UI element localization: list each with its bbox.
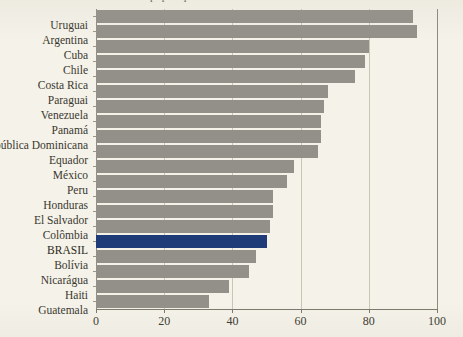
bar-row (96, 144, 437, 159)
bar-uruguai (96, 10, 413, 23)
category-label-nicar-gua: Nicarágua (0, 274, 88, 287)
category-tick (93, 301, 96, 302)
bar-peru (96, 175, 287, 188)
chart-title: população (150, 0, 199, 2)
x-tick-label-0: 0 (93, 314, 99, 329)
bar-row (96, 54, 437, 69)
bar-row (96, 174, 437, 189)
category-label-uruguai: Uruguai (0, 19, 88, 32)
x-tick-40 (232, 309, 233, 313)
bar-row (96, 219, 437, 234)
bar-m-xico (96, 160, 294, 173)
x-axis-line (96, 309, 438, 310)
bar-bol-via (96, 250, 256, 263)
category-tick (93, 61, 96, 62)
category-label-col-mbia: Colômbia (0, 229, 88, 242)
category-tick (93, 226, 96, 227)
bar-row (96, 99, 437, 114)
category-tick (93, 211, 96, 212)
plot-area: UruguaiArgentinaCubaChileCosta RicaParag… (96, 9, 437, 309)
chart-title-strip: população (0, 0, 463, 9)
bar-row (96, 249, 437, 264)
category-label-rep-blica-dominicana: República Dominicana (0, 139, 88, 152)
bar-row (96, 204, 437, 219)
category-label-guatemala: Guatemala (0, 304, 88, 317)
bar-row (96, 294, 437, 309)
bar-row (96, 84, 437, 99)
x-tick-100 (437, 309, 438, 313)
bar-el-salvador (96, 205, 273, 218)
bar-chart: população UruguaiArgentinaCubaChileCosta… (0, 0, 463, 337)
bar-row (96, 129, 437, 144)
category-label-panam-: Panamá (0, 124, 88, 137)
bar-row (96, 264, 437, 279)
bar-argentina (96, 25, 417, 38)
category-label-equador: Equador (0, 154, 88, 167)
bar-row (96, 9, 437, 24)
x-tick-60 (301, 309, 302, 313)
bar-panam- (96, 115, 321, 128)
category-label-honduras: Honduras (0, 199, 88, 212)
bar-col-mbia (96, 220, 270, 233)
category-tick (93, 31, 96, 32)
category-tick (93, 91, 96, 92)
bar-cuba (96, 40, 369, 53)
category-label-venezuela: Venezuela (0, 109, 88, 122)
category-label-paraguai: Paraguai (0, 94, 88, 107)
category-tick (93, 241, 96, 242)
bar-rep-blica-dominicana (96, 130, 321, 143)
bar-row (96, 114, 437, 129)
category-label-chile: Chile (0, 64, 88, 77)
bar-venezuela (96, 100, 324, 113)
bar-nicar-gua (96, 265, 249, 278)
bar-guatemala (96, 295, 209, 308)
category-tick (93, 166, 96, 167)
x-tick-label-100: 100 (428, 314, 446, 329)
bar-row (96, 39, 437, 54)
bar-haiti (96, 280, 229, 293)
bar-row (96, 69, 437, 84)
category-label-haiti: Haiti (0, 289, 88, 302)
category-tick (93, 121, 96, 122)
bar-equador (96, 145, 318, 158)
bar-brasil (96, 235, 267, 248)
bar-chile (96, 55, 365, 68)
category-tick (93, 151, 96, 152)
category-tick (93, 106, 96, 107)
category-tick (93, 46, 96, 47)
category-tick (93, 286, 96, 287)
x-tick-20 (164, 309, 165, 313)
x-tick-label-40: 40 (226, 314, 238, 329)
bar-costa-rica (96, 70, 355, 83)
category-tick (93, 196, 96, 197)
category-tick (93, 181, 96, 182)
category-tick (93, 76, 96, 77)
category-label-argentina: Argentina (0, 34, 88, 47)
category-labels: UruguaiArgentinaCubaChileCosta RicaParag… (0, 18, 92, 318)
bar-row (96, 189, 437, 204)
bar-honduras (96, 190, 273, 203)
category-tick (93, 256, 96, 257)
bar-paraguai (96, 85, 328, 98)
category-label-m-xico: México (0, 169, 88, 182)
x-tick-0 (96, 309, 97, 313)
x-tick-label-80: 80 (363, 314, 375, 329)
bar-row (96, 234, 437, 249)
bar-row (96, 279, 437, 294)
x-tick-80 (369, 309, 370, 313)
category-label-el-salvador: El Salvador (0, 214, 88, 227)
category-tick (93, 271, 96, 272)
category-label-cuba: Cuba (0, 49, 88, 62)
x-tick-label-60: 60 (295, 314, 307, 329)
category-label-brasil: BRASIL (0, 244, 88, 257)
category-label-peru: Peru (0, 184, 88, 197)
category-tick (93, 16, 96, 17)
category-tick (93, 136, 96, 137)
category-label-costa-rica: Costa Rica (0, 79, 88, 92)
bar-row (96, 24, 437, 39)
gridline-100 (437, 9, 438, 309)
bar-row (96, 159, 437, 174)
category-label-bol-via: Bolívia (0, 259, 88, 272)
x-tick-label-20: 20 (158, 314, 170, 329)
